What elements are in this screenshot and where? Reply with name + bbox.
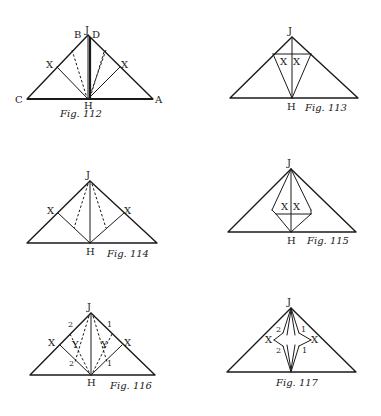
fold-line	[90, 213, 124, 243]
point-label: B	[74, 29, 81, 40]
fold-line	[274, 333, 283, 340]
figure-caption: Fig. 112	[59, 108, 102, 119]
dashed-fold-line	[92, 184, 106, 228]
figure-fig114: JXXHFig. 114	[27, 169, 157, 259]
point-label: X	[281, 201, 289, 212]
point-label: 1	[107, 320, 112, 329]
figure-fig117: J21XX21Fig. 117	[227, 296, 356, 388]
figure-caption: Fig. 115	[306, 235, 349, 246]
point-label: X	[47, 205, 55, 216]
point-label: 1	[302, 346, 307, 355]
point-label: C	[15, 94, 23, 105]
point-label: 2	[69, 359, 74, 368]
figure-fig113: JXXHFig. 113	[230, 25, 358, 113]
point-label: X	[46, 59, 54, 70]
point-label: H	[287, 101, 296, 112]
figure-caption: Fig. 113	[304, 102, 347, 113]
fold-line	[291, 346, 299, 372]
figure-fig115: JXXHFig. 115	[228, 157, 356, 246]
point-label: J	[84, 24, 89, 35]
point-label: J	[286, 157, 291, 168]
point-label: 2	[68, 320, 73, 329]
point-label: 2	[276, 325, 281, 334]
point-label: X	[48, 337, 56, 348]
triangle-outline	[228, 169, 356, 232]
point-label: J	[85, 169, 90, 180]
figure-caption: Fig. 116	[109, 380, 153, 391]
figure-fig116: J21XXYY21HFig. 116	[30, 301, 155, 391]
figure-caption: Fig. 114	[106, 248, 149, 259]
fold-line	[88, 67, 120, 99]
point-label: X	[311, 334, 319, 345]
point-label: X	[265, 334, 273, 345]
point-label: H	[86, 246, 95, 257]
fold-line	[283, 346, 291, 372]
dashed-fold-line	[90, 52, 104, 98]
fold-line	[276, 214, 291, 232]
origami-diagram-plate: JBDXXCAHFig. 112JXXHFig. 113JXXHFig. 114…	[0, 0, 381, 416]
point-label: X	[280, 56, 288, 67]
fold-line	[299, 333, 311, 340]
point-label: D	[92, 29, 100, 40]
point-label: X	[124, 205, 132, 216]
point-label: Y	[100, 339, 108, 350]
triangle-outline	[227, 308, 356, 372]
point-label: X	[121, 59, 129, 70]
figure-caption: Fig. 117	[275, 377, 319, 388]
triangle-outline	[230, 37, 358, 98]
fold-line	[291, 214, 311, 232]
point-label: H	[87, 377, 96, 388]
point-label: 1	[301, 325, 306, 334]
point-label: Y	[71, 339, 79, 350]
point-label: A	[154, 94, 163, 105]
point-label: X	[293, 56, 301, 67]
point-label: J	[286, 296, 291, 307]
point-label: 1	[107, 359, 112, 368]
point-label: J	[287, 25, 292, 36]
point-label: J	[86, 301, 91, 312]
figure-fig112: JBDXXCAHFig. 112	[15, 24, 163, 119]
point-label: X	[124, 337, 132, 348]
fold-line	[57, 67, 88, 99]
point-label: H	[287, 235, 296, 246]
point-label: 2	[276, 346, 281, 355]
fold-line	[272, 210, 276, 214]
point-label: X	[293, 201, 301, 212]
